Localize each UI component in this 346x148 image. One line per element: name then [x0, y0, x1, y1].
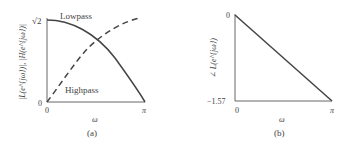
y-label-a: |L(e^{jω})|, |H(e^{jω})| [18, 24, 27, 100]
x-tick-0-a: 0 [45, 106, 49, 115]
lowpass-label: Lowpass [60, 11, 92, 21]
x-tick-pi-b: π [330, 106, 335, 115]
y-label-b: ∠ L(e^{jω}) [209, 38, 218, 78]
x-tick-pi-a: π [142, 106, 147, 115]
phase-line [235, 15, 332, 101]
panel-b: 0 −1.57 0 π ω (b) ∠ L(e^{jω}) [207, 11, 335, 138]
panel-a: Lowpass Highpass √2 0 0 π ω (a) |L(e^{jω… [18, 11, 147, 138]
highpass-label: Highpass [65, 85, 99, 95]
y-tick-sqrt2: √2 [32, 16, 41, 26]
figure: Lowpass Highpass √2 0 0 π ω (a) |L(e^{jω… [0, 0, 346, 148]
panel-label-a: (a) [87, 128, 97, 138]
y-tick-0-b: 0 [226, 11, 230, 20]
y-tick-0-a: 0 [38, 99, 42, 108]
x-label-b: ω [279, 115, 285, 124]
y-tick-neg157: −1.57 [207, 97, 226, 106]
panel-label-b: (b) [274, 128, 285, 138]
x-tick-0-b: 0 [235, 106, 239, 115]
x-label-a: ω [92, 115, 98, 124]
